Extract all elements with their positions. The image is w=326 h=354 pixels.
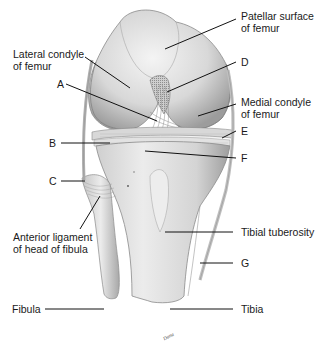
label-line: Lateral condyle — [13, 48, 84, 60]
label-anterior-ligament-fibula: Anterior ligament of head of fibula — [13, 231, 92, 255]
label-d: D — [241, 56, 249, 68]
label-tibial-tuberosity: Tibial tuberosity — [241, 226, 314, 238]
label-fibula: Fibula — [12, 303, 41, 315]
label-f: F — [241, 152, 247, 164]
label-b: B — [49, 137, 56, 149]
label-line: of femur — [13, 60, 84, 72]
label-g: G — [241, 257, 249, 269]
label-lateral-condyle: Lateral condyle of femur — [13, 48, 84, 72]
knee-anatomy-figure: Lateral condyle of femur A B C Anterior … — [0, 0, 326, 354]
label-line: Anterior ligament — [13, 231, 92, 243]
label-e: E — [241, 125, 248, 137]
label-line: of femur — [241, 108, 311, 120]
label-line: of femur — [241, 22, 314, 34]
label-a: A — [57, 78, 64, 90]
label-line: of head of fibula — [13, 243, 92, 255]
label-patellar-surface: Patellar surface of femur — [241, 10, 314, 34]
label-tibia: Tibia — [241, 303, 263, 315]
label-line: Medial condyle — [241, 96, 311, 108]
label-c: C — [49, 175, 57, 187]
label-line: Patellar surface — [241, 10, 314, 22]
label-medial-condyle: Medial condyle of femur — [241, 96, 311, 120]
